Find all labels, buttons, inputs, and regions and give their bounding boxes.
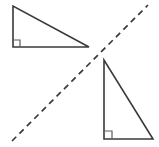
upper-left-triangle bbox=[13, 6, 89, 47]
upper-left-triangle-group bbox=[13, 6, 89, 47]
lower-right-right-angle-icon bbox=[104, 131, 112, 139]
dashed-mirror-line bbox=[12, 5, 148, 141]
geometry-figure-svg: Two congruent right triangles reflected … bbox=[0, 0, 159, 147]
lower-right-triangle bbox=[104, 60, 153, 139]
geometry-figure-canvas: Two congruent right triangles reflected … bbox=[0, 0, 159, 147]
lower-right-triangle-group bbox=[104, 60, 153, 139]
upper-left-right-angle-icon bbox=[13, 40, 20, 47]
